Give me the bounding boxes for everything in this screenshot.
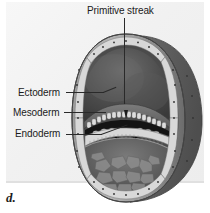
label-primitive-streak: Primitive streak bbox=[87, 5, 154, 16]
figure-letter: d. bbox=[6, 190, 16, 206]
leader-line-ectoderm bbox=[66, 92, 104, 93]
leader-line-mesoderm bbox=[64, 112, 106, 113]
embryo-illustration bbox=[66, 30, 210, 205]
leader-line-endoderm bbox=[66, 134, 102, 135]
leader-line-primitive-streak bbox=[124, 18, 125, 104]
label-endoderm: Endoderm bbox=[15, 128, 60, 139]
label-ectoderm: Ectoderm bbox=[18, 87, 60, 98]
label-mesoderm: Mesoderm bbox=[13, 107, 59, 118]
